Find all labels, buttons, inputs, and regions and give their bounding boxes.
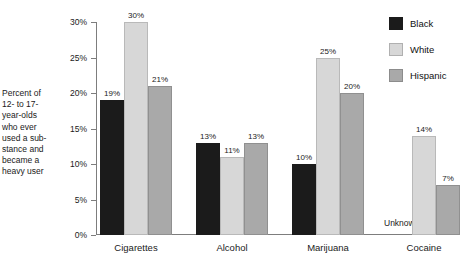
legend-label: White [410, 44, 434, 55]
legend-label: Black [410, 18, 433, 29]
y-tick-label: 15% [57, 124, 87, 134]
y-tick-mark [91, 22, 96, 23]
bar-marijuana-hispanic [340, 93, 364, 235]
y-tick-mark [91, 129, 96, 130]
bar-alcohol-black [196, 143, 220, 235]
bar-value-label: 30% [119, 11, 153, 20]
y-tick-label: 25% [57, 53, 87, 63]
legend-item-black: Black [389, 10, 446, 36]
y-tick-mark [91, 164, 96, 165]
bar-alcohol-hispanic [244, 143, 268, 235]
legend-label: Hispanic [410, 70, 446, 81]
bar-value-label: 13% [191, 132, 225, 141]
y-tick-label: 0% [57, 230, 87, 240]
bar-cigarettes-black [100, 100, 124, 235]
legend-swatch-icon [389, 17, 403, 30]
bar-cigarettes-hispanic [148, 86, 172, 235]
bar-cocaine-hispanic [436, 185, 460, 235]
bar-value-label: 14% [407, 125, 441, 134]
bar-marijuana-black [292, 164, 316, 235]
legend-swatch-icon [389, 43, 403, 56]
y-tick-mark [91, 235, 96, 236]
y-axis-line [96, 22, 97, 235]
bar-value-label: 21% [143, 75, 177, 84]
legend-item-white: White [389, 36, 446, 62]
legend-swatch-icon [389, 69, 403, 82]
y-axis-label: Percent of 12- to 17- year-olds who ever… [2, 88, 60, 178]
y-tick-mark [91, 58, 96, 59]
x-category-label: Cocaine [369, 242, 466, 253]
bar-value-label: 25% [311, 47, 345, 56]
bar-value-label: 13% [239, 132, 273, 141]
bar-value-label: 20% [335, 82, 369, 91]
legend-item-hispanic: Hispanic [389, 62, 446, 88]
bar-alcohol-white [220, 157, 244, 235]
x-category-label: Marijuana [273, 242, 383, 253]
x-category-label: Alcohol [177, 242, 287, 253]
bar-cigarettes-white [124, 22, 148, 235]
y-tick-mark [91, 200, 96, 201]
bar-cocaine-white [412, 136, 436, 235]
y-tick-label: 5% [57, 195, 87, 205]
legend: BlackWhiteHispanic [389, 10, 446, 88]
y-tick-label: 20% [57, 88, 87, 98]
y-tick-label: 10% [57, 159, 87, 169]
bar-value-label: 7% [431, 174, 465, 183]
y-tick-label: 30% [57, 17, 87, 27]
bar-chart: Percent of 12- to 17- year-olds who ever… [0, 0, 466, 259]
x-category-label: Cigarettes [81, 242, 191, 253]
